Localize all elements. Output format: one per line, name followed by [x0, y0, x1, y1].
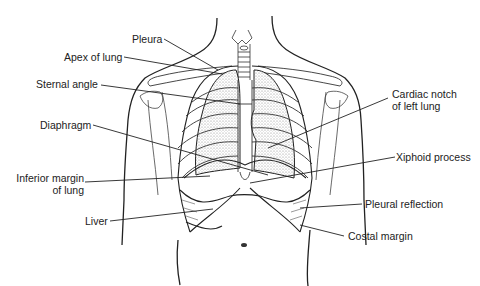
label-pleura: Pleura [132, 33, 162, 45]
label-cardiac-notch-line2: of left lung [392, 100, 457, 112]
label-xiphoid-process: Xiphoid process [396, 151, 471, 163]
label-sternal-angle: Sternal angle [36, 78, 98, 90]
leader-pleural-reflection [300, 204, 362, 208]
thorax-illustration [0, 0, 480, 286]
leader-apex-of-lung [124, 57, 222, 74]
label-inferior-margin-line2: of lung [16, 184, 84, 196]
label-diaphragm: Diaphragm [40, 119, 91, 131]
leader-liver [110, 209, 213, 221]
label-cardiac-notch-of-left-lung: Cardiac notch of left lung [392, 88, 457, 112]
label-pleural-reflection: Pleural reflection [365, 198, 443, 210]
thorax-anatomy-diagram: Pleura Apex of lung Sternal angle Diaphr… [0, 0, 480, 286]
label-inferior-margin-line1: Inferior margin [16, 172, 84, 184]
clavicles [148, 66, 342, 86]
leader-costal-margin [300, 225, 344, 236]
leader-diaphragm [93, 125, 268, 175]
label-liver: Liver [85, 215, 108, 227]
label-costal-margin: Costal margin [348, 230, 413, 242]
navel [241, 243, 247, 247]
label-cardiac-notch-line1: Cardiac notch [392, 88, 457, 100]
left-lung [251, 70, 294, 178]
label-apex-of-lung: Apex of lung [64, 51, 122, 63]
leader-inferior-margin [85, 176, 210, 182]
label-inferior-margin-of-lung: Inferior margin of lung [16, 172, 84, 196]
right-lung [195, 70, 240, 175]
